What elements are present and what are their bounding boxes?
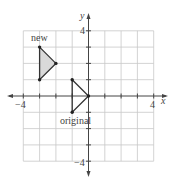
y-tick-label-neg4: −4	[74, 157, 85, 168]
y-tick-label-4: 4	[80, 25, 85, 36]
x-axis-left-arrow-icon	[7, 94, 13, 98]
y-axis-up-arrow-icon	[87, 13, 91, 19]
x-axis-label: x	[160, 95, 166, 106]
y-axis-label: y	[79, 10, 85, 21]
x-tick-label-4: 4	[150, 99, 155, 110]
coordinate-plane: y x 4 −4 −4 4 new original	[0, 0, 174, 179]
triangle-new	[38, 45, 58, 81]
label-original: original	[60, 115, 91, 126]
label-new: new	[31, 32, 48, 43]
x-tick-label-neg4: −4	[15, 99, 26, 110]
y-axis-down-arrow-icon	[87, 171, 91, 177]
